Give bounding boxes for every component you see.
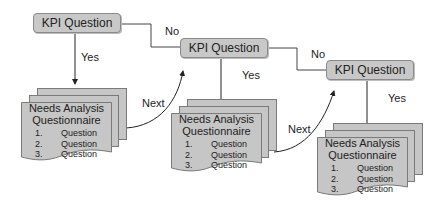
questionnaire-title-line1: Needs Analysis bbox=[21, 102, 112, 114]
questionnaire-document: Needs Analysis Questionnaire 1.Question … bbox=[171, 113, 262, 173]
questionnaire-stack-1: Needs Analysis Questionnaire 1.Question … bbox=[21, 88, 129, 168]
question-item: 1.Question bbox=[185, 139, 257, 150]
next-label-2: Next bbox=[288, 123, 311, 135]
yes-label-3: Yes bbox=[388, 92, 406, 104]
question-item: 2.Question bbox=[185, 150, 257, 161]
question-item: 3.Question bbox=[331, 184, 403, 195]
kpi-question-node-3: KPI Question bbox=[326, 60, 414, 80]
questionnaire-title-line2: Questionnaire bbox=[171, 125, 262, 137]
yes-label-1: Yes bbox=[81, 51, 99, 63]
questionnaire-stack-3: Needs Analysis Questionnaire 1.Question … bbox=[317, 123, 425, 203]
questionnaire-document: Needs Analysis Questionnaire 1.Question … bbox=[21, 102, 112, 162]
questionnaire-stack-2: Needs Analysis Questionnaire 1.Question … bbox=[171, 99, 279, 179]
no-label-2: No bbox=[311, 48, 325, 60]
kpi-question-node-1: KPI Question bbox=[33, 13, 121, 33]
questionnaire-title-line2: Questionnaire bbox=[317, 149, 408, 161]
question-item: 1.Question bbox=[331, 163, 403, 174]
next-label-1: Next bbox=[142, 97, 165, 109]
questionnaire-document: Needs Analysis Questionnaire 1.Question … bbox=[317, 137, 408, 197]
no-label-1: No bbox=[165, 25, 179, 37]
question-item: 1.Question bbox=[35, 128, 107, 139]
questionnaire-title-line1: Needs Analysis bbox=[317, 137, 408, 149]
question-item: 2.Question bbox=[331, 174, 403, 185]
questionnaire-title-line1: Needs Analysis bbox=[171, 113, 262, 125]
question-item: 2.Question bbox=[35, 139, 107, 150]
questionnaire-title-line2: Questionnaire bbox=[21, 114, 112, 126]
yes-label-2: Yes bbox=[242, 69, 260, 81]
question-item: 3.Question bbox=[185, 160, 257, 171]
kpi-question-node-2: KPI Question bbox=[180, 38, 268, 58]
question-item: 3.Question bbox=[35, 149, 107, 160]
